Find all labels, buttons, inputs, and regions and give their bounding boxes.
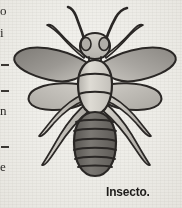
wing-upper-left xyxy=(14,48,87,82)
scanned-page: o i n e xyxy=(0,0,182,208)
insect-illustration xyxy=(8,2,180,184)
insect-thorax xyxy=(78,60,112,114)
eye-left xyxy=(81,38,91,51)
figure-caption: Insecto. xyxy=(106,184,150,199)
eye-right xyxy=(99,38,109,51)
wing-upper-right xyxy=(103,48,176,82)
